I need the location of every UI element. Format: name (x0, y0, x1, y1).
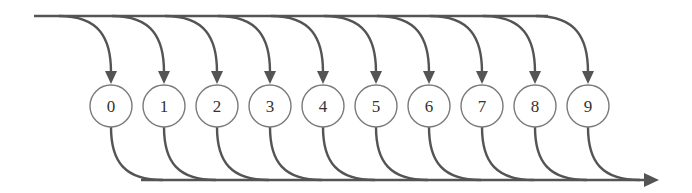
arrow-down-icon (105, 71, 117, 84)
node-9: 9 (567, 85, 609, 127)
incoming-edge (271, 16, 323, 72)
node-4: 4 (302, 85, 344, 127)
flow-diagram: 0123456789 (0, 0, 692, 193)
incoming-edge (377, 16, 429, 72)
outgoing-edge (111, 127, 163, 180)
incoming-edge (112, 16, 164, 72)
node-2: 2 (196, 85, 238, 127)
node-label: 8 (531, 97, 540, 116)
node-7: 7 (461, 85, 503, 127)
nodes: 0123456789 (90, 85, 609, 127)
node-label: 3 (266, 97, 275, 116)
arrow-down-icon (264, 71, 276, 84)
outgoing-edge (535, 127, 587, 180)
outgoing-edge (376, 127, 428, 180)
node-label: 0 (107, 97, 116, 116)
node-label: 5 (372, 97, 381, 116)
arrow-down-icon (476, 71, 488, 84)
node-0: 0 (90, 85, 132, 127)
outgoing-edge (482, 127, 534, 180)
arrow-down-icon (582, 71, 594, 84)
outgoing-edge (217, 127, 269, 180)
incoming-edge (59, 16, 111, 72)
incoming-edge (483, 16, 535, 72)
incoming-edge (430, 16, 482, 72)
outgoing-edge (323, 127, 375, 180)
node-label: 6 (425, 97, 434, 116)
node-5: 5 (355, 85, 397, 127)
outgoing-edge (164, 127, 216, 180)
node-label: 2 (213, 97, 222, 116)
arrow-down-icon (317, 71, 329, 84)
arrow-down-icon (423, 71, 435, 84)
node-label: 9 (584, 97, 593, 116)
arrow-down-icon (370, 71, 382, 84)
output-arrow-icon (644, 173, 659, 187)
node-label: 1 (160, 97, 169, 116)
arrow-down-icon (211, 71, 223, 84)
node-label: 4 (319, 97, 328, 116)
incoming-edge (324, 16, 376, 72)
arrow-down-icon (158, 71, 170, 84)
arrow-down-icon (529, 71, 541, 84)
node-label: 7 (478, 97, 487, 116)
node-1: 1 (143, 85, 185, 127)
incoming-edge (536, 16, 588, 72)
outgoing-edge (429, 127, 481, 180)
node-8: 8 (514, 85, 556, 127)
incoming-edge (165, 16, 217, 72)
outgoing-edge (270, 127, 322, 180)
node-3: 3 (249, 85, 291, 127)
outgoing-edge (588, 127, 640, 180)
incoming-edge (218, 16, 270, 72)
node-6: 6 (408, 85, 450, 127)
